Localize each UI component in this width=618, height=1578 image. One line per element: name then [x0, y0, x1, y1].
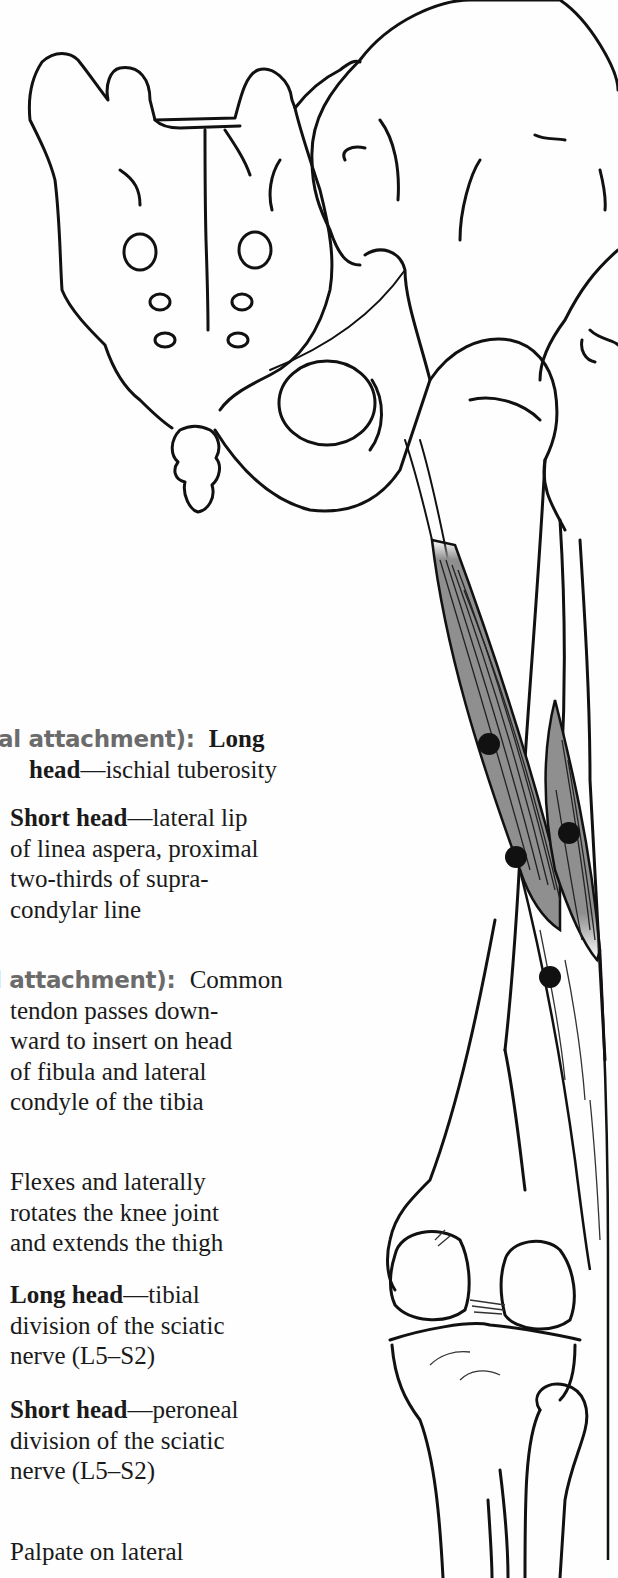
insertion-text: condyle of the tibia	[0, 1087, 283, 1118]
ilium-outline	[312, 0, 618, 380]
palpation-text: Palpate on lateral	[10, 1537, 184, 1568]
short-head-origin-text: two-thirds of supra-	[10, 864, 259, 895]
attachment-dot	[505, 846, 527, 868]
innervation-short-head-entry: Short head—peroneal division of the scia…	[10, 1395, 238, 1487]
attachment-dot	[478, 733, 500, 755]
long-head-origin-text: —ischial tuberosity	[80, 756, 277, 783]
origin-entry: al attachment): Long head—ischial tubero…	[0, 724, 277, 785]
palpation-entry: Palpate on lateral	[10, 1537, 184, 1568]
text-column: al attachment): Long head—ischial tubero…	[0, 0, 340, 1578]
short-head-origin-text: of linea aspera, proximal	[10, 834, 259, 865]
short-head-term: Short head	[10, 1396, 127, 1423]
action-entry: Flexes and laterally rotates the knee jo…	[10, 1167, 223, 1259]
insertion-label: l attachment):	[0, 967, 175, 993]
femoral-condyle	[390, 1232, 469, 1320]
short-head-origin-text: condylar line	[10, 895, 259, 926]
attachment-dot	[539, 966, 561, 988]
long-head-term: head	[29, 756, 80, 783]
innervation-text: —peroneal	[127, 1396, 238, 1423]
innervation-text: division of the sciatic	[10, 1311, 225, 1342]
anatomy-page: al attachment): Long head—ischial tubero…	[0, 0, 618, 1578]
long-head-term: Long head	[10, 1281, 123, 1308]
insertion-entry: l attachment): Common tendon passes down…	[0, 965, 283, 1118]
insertion-text: tendon passes down-	[0, 996, 283, 1027]
insertion-text: ward to insert on head	[0, 1026, 283, 1057]
action-text: Flexes and laterally	[10, 1167, 223, 1198]
action-text: rotates the knee joint	[10, 1198, 223, 1229]
origin-label: al attachment):	[0, 726, 195, 752]
femur-head	[430, 339, 565, 530]
tibia	[392, 1345, 443, 1578]
innervation-long-head-entry: Long head—tibial division of the sciatic…	[10, 1280, 225, 1372]
action-text: and extends the thigh	[10, 1228, 223, 1259]
insertion-text: of fibula and lateral	[0, 1057, 283, 1088]
attachment-dot	[558, 822, 580, 844]
femoral-condyle	[501, 1241, 574, 1329]
origin-short-head-entry: Short head—lateral lip of linea aspera, …	[10, 803, 259, 925]
innervation-text: nerve (L5–S2)	[10, 1341, 225, 1372]
short-head-origin-text: —lateral lip	[127, 804, 247, 831]
innervation-text: —tibial	[123, 1281, 199, 1308]
fibula-head	[537, 1384, 587, 1578]
long-head-term: Long	[209, 725, 265, 752]
innervation-text: nerve (L5–S2)	[10, 1456, 238, 1487]
short-head-term: Short head	[10, 804, 127, 831]
insertion-text: Common	[190, 966, 283, 993]
innervation-text: division of the sciatic	[10, 1426, 238, 1457]
